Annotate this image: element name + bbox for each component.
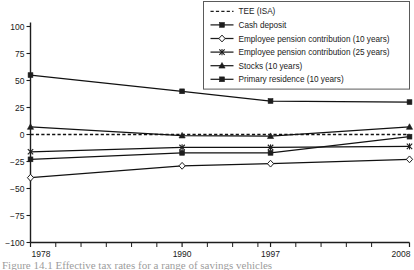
y-axis-tick-label: 0	[20, 130, 25, 140]
legend-label: Primary residence (10 years)	[239, 75, 344, 84]
marker-filled-square	[220, 77, 225, 82]
y-axis-tick-label: 75	[15, 49, 25, 59]
x-axis-tick-label: 1997	[261, 249, 280, 259]
legend-label: Stocks (10 years)	[239, 62, 303, 71]
effective-tax-rate-line-chart: 1007550250−25−50−75−1001978199019972008T…	[0, 0, 414, 262]
legend-label: TEE (ISA)	[239, 7, 276, 16]
marker-filled-square	[28, 73, 33, 78]
marker-open-diamond	[27, 174, 33, 181]
marker-filled-square	[220, 23, 225, 28]
figure-container: 1007550250−25−50−75−1001978199019972008T…	[0, 0, 414, 270]
chart-legend: TEE (ISA)Cash depositEmployee pension co…	[204, 2, 410, 90]
marker-filled-square	[180, 150, 185, 155]
marker-filled-square	[28, 157, 33, 162]
legend-label: Cash deposit	[239, 21, 288, 30]
figure-caption-text: Figure 14.1 Effective tax rates for a ra…	[2, 261, 272, 270]
y-axis-tick-label: −50	[10, 184, 25, 194]
figure-caption: Figure 14.1 Effective tax rates for a ra…	[0, 261, 414, 270]
series-2	[27, 156, 412, 181]
marker-open-diamond	[179, 162, 185, 169]
legend-label: Employee pension contribution (25 years)	[239, 48, 390, 57]
x-axis-tick-label: 1990	[173, 249, 192, 259]
series-line	[31, 146, 410, 151]
y-axis-tick-label: −100	[5, 238, 24, 248]
y-axis-tick-label: 50	[15, 76, 25, 86]
series-4	[27, 124, 412, 139]
marker-filled-square	[268, 99, 273, 104]
marker-filled-square	[268, 150, 273, 155]
legend-label: Employee pension contribution (10 years)	[239, 35, 390, 44]
x-axis-tick-label: 2008	[392, 249, 411, 259]
series-line	[31, 159, 410, 177]
marker-filled-square	[180, 89, 185, 94]
marker-open-diamond	[267, 160, 273, 167]
marker-filled-square	[407, 134, 412, 139]
marker-open-diamond	[406, 156, 412, 163]
x-axis-tick-label: 1978	[32, 249, 51, 259]
y-axis-tick-label: −75	[10, 211, 25, 221]
y-axis-tick-label: −25	[10, 157, 25, 167]
marker-filled-square	[407, 100, 412, 105]
y-axis-tick-label: 25	[15, 103, 25, 113]
y-axis-tick-label: 100	[10, 22, 24, 32]
